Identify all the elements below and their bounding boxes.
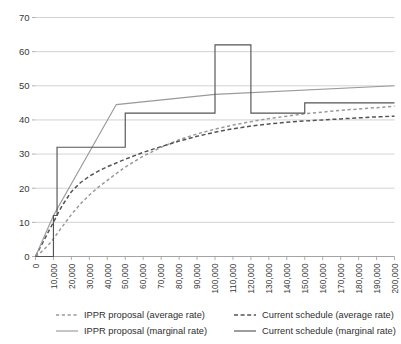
- x-tick-label: 110,000: [228, 263, 238, 293]
- x-tick-labels: 010,00020,00030,00040,00050,00060,00070,…: [31, 263, 400, 293]
- y-tick-label: 0: [24, 251, 29, 262]
- x-tick-label: 0: [31, 263, 41, 268]
- x-tick-label: 170,000: [336, 263, 346, 293]
- series-line-1: [36, 116, 395, 256]
- x-tick-label: 70,000: [156, 263, 166, 289]
- y-tick-labels: 010203040506070: [19, 12, 36, 262]
- x-tick-label: 190,000: [372, 263, 382, 293]
- y-tick-label: 50: [19, 80, 30, 91]
- x-tick-label: 10,000: [49, 263, 59, 289]
- x-tick-label: 90,000: [192, 263, 202, 289]
- x-tick-label: 150,000: [300, 263, 310, 293]
- series-line-0: [36, 106, 395, 256]
- y-tick-label: 40: [19, 114, 30, 125]
- legend-label: Current schedule (marginal rate): [262, 326, 396, 336]
- y-tick-label: 60: [19, 46, 30, 57]
- y-tick-label: 30: [19, 148, 30, 159]
- x-tick-label: 60,000: [138, 263, 148, 289]
- x-tick-label: 180,000: [354, 263, 364, 293]
- x-tick-label: 100,000: [210, 263, 220, 293]
- x-tick-marks: [36, 257, 395, 261]
- chart-legend: IPPR proposal (average rate)Current sche…: [56, 310, 396, 336]
- x-tick-label: 160,000: [318, 263, 328, 293]
- x-tick-label: 120,000: [246, 263, 256, 293]
- x-tick-label: 30,000: [85, 263, 95, 289]
- series-lines-group: [36, 45, 395, 257]
- y-tick-label: 10: [19, 217, 30, 228]
- legend-label: IPPR proposal (average rate): [84, 310, 205, 320]
- x-tick-label: 80,000: [174, 263, 184, 289]
- legend-label: IPPR proposal (marginal rate): [84, 326, 207, 336]
- x-tick-label: 200,000: [390, 263, 400, 293]
- legend-label: Current schedule (average rate): [262, 310, 394, 320]
- x-tick-label: 50,000: [120, 263, 130, 289]
- x-tick-label: 20,000: [67, 263, 77, 289]
- y-tick-label: 70: [19, 12, 30, 23]
- chart-canvas: 010203040506070 010,00020,00030,00040,00…: [0, 0, 401, 344]
- series-line-3: [36, 45, 395, 257]
- tax-rate-chart: 010203040506070 010,00020,00030,00040,00…: [0, 0, 401, 344]
- x-tick-label: 140,000: [282, 263, 292, 293]
- y-tick-label: 20: [19, 183, 30, 194]
- x-tick-label: 40,000: [103, 263, 113, 289]
- x-tick-label: 130,000: [264, 263, 274, 293]
